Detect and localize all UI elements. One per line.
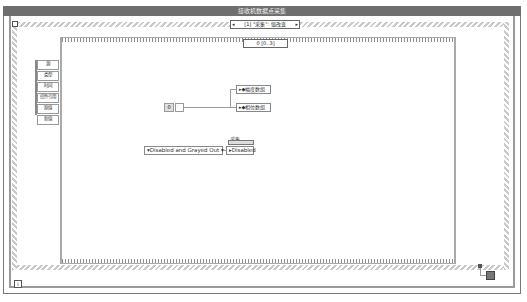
- amplitude-array-property-node[interactable]: ▸◆幅度数组: [236, 85, 271, 94]
- sequence-bottom-filmstrip: [62, 259, 454, 263]
- iteration-terminal-icon: i: [14, 280, 22, 288]
- wire[interactable]: [480, 275, 486, 276]
- event-data-time[interactable]: 时间: [37, 82, 59, 92]
- window-title-bar: 接收机数据点采集: [3, 6, 521, 16]
- event-case-selector[interactable]: ◂ [1] "采集": 值改变 ▸: [230, 20, 300, 29]
- disabled-property-node[interactable]: ▸Disabled: [226, 146, 254, 155]
- window-title: 接收机数据点采集: [3, 6, 521, 16]
- sequence-frame-selector[interactable]: 0 [0..3]: [243, 39, 288, 48]
- event-data-source[interactable]: 源: [37, 60, 59, 70]
- sequence-structure-frame: [60, 37, 456, 264]
- event-data-node: 源 类型 时间 控件引用 原值 新值: [35, 60, 57, 115]
- event-data-newval[interactable]: 新值: [37, 115, 59, 125]
- timeout-terminal-icon: [12, 21, 18, 27]
- event-structure-bottom-border: [12, 265, 509, 270]
- next-case-arrow-icon[interactable]: ▸: [295, 21, 298, 28]
- prev-case-arrow-icon[interactable]: ◂: [232, 21, 235, 28]
- event-structure-right-border: [504, 22, 509, 270]
- array-constant-icon[interactable]: [175, 103, 184, 112]
- wire[interactable]: [230, 89, 231, 108]
- disabled-enum-constant[interactable]: ▾Disabled and Grayed Out ▾: [144, 146, 223, 155]
- event-data-oldval[interactable]: 原值: [37, 104, 59, 114]
- event-data-ctlref[interactable]: 控件引用: [37, 93, 59, 103]
- sequence-frame-label: 0 [0..3]: [256, 40, 274, 46]
- wire[interactable]: [184, 107, 230, 108]
- stop-condition-terminal[interactable]: [486, 271, 495, 280]
- control-reference-terminal[interactable]: [228, 140, 254, 145]
- event-data-type[interactable]: 类型: [37, 71, 59, 81]
- numeric-constant[interactable]: 0: [164, 103, 174, 112]
- event-case-label: [1] "采集": 值改变: [244, 21, 286, 27]
- phase-array-property-node[interactable]: ▸◆相位数组: [236, 103, 271, 112]
- event-structure-left-border: [12, 22, 17, 270]
